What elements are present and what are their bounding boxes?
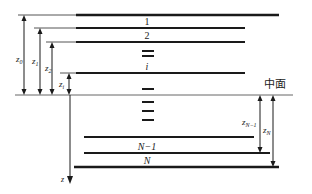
z0-label: z0 [15,54,23,65]
zN1-label: zN−1 [241,117,257,128]
ply-label-N-1: N−1 [137,141,156,152]
z-axis-arrow-icon [67,176,73,184]
ply-labels: 1 2 i N−1 N [137,16,156,166]
z1-label: z1 [31,56,39,67]
z-axis-label: z [60,175,65,184]
z2-label: z2 [44,63,52,74]
ply-boundaries-bottom [74,137,279,167]
midplane-label: 中面 [264,78,286,90]
ply-label-2: 2 [145,30,150,41]
ply-label-i: i [146,61,149,72]
laminate-diagram: 中面 z z0 z1 z2 [0,0,312,194]
ply-label-1: 1 [145,16,150,27]
zN-label: zN [262,125,272,136]
ply-label-N: N [143,155,152,166]
zi-label: zi [58,79,65,90]
